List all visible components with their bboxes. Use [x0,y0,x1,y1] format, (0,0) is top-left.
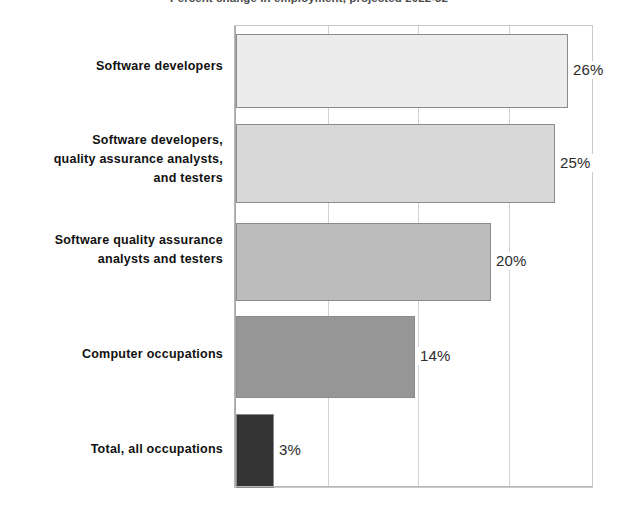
category-label-line: Software developers [8,57,223,76]
value-label-total-all-occupations: 3% [276,441,304,459]
bar-software-developers-qa-testers[interactable] [236,124,555,203]
value-label-software-developers: 26% [570,61,607,79]
bar-computer-occupations[interactable] [236,316,415,398]
category-label-line: and testers [8,169,223,188]
value-label-software-qa-analysts-testers: 20% [493,252,530,270]
category-label-line: Computer occupations [8,345,223,364]
category-label-software-qa-analysts-testers: Software quality assurance analysts and … [8,231,223,269]
x-axis-line [235,486,592,487]
bar-software-developers[interactable] [236,34,568,108]
bar-total-all-occupations[interactable] [236,414,274,488]
category-label-line: Software developers, [8,131,223,150]
category-label-total-all-occupations: Total, all occupations [8,440,223,459]
category-label-software-developers: Software developers [8,57,223,76]
category-label-line: Total, all occupations [8,440,223,459]
category-label-software-developers-qa-testers: Software developers, quality assurance a… [8,131,223,188]
category-label-computer-occupations: Computer occupations [8,345,223,364]
chart-title: Percent change in employment, projected … [0,0,618,5]
category-label-line: analysts and testers [8,250,223,269]
value-label-software-developers-qa-testers: 25% [557,154,594,172]
plot-area [234,25,593,488]
bar-software-qa-analysts-testers[interactable] [236,223,491,301]
category-label-line: quality assurance analysts, [8,150,223,169]
value-label-computer-occupations: 14% [417,347,454,365]
category-label-line: Software quality assurance [8,231,223,250]
